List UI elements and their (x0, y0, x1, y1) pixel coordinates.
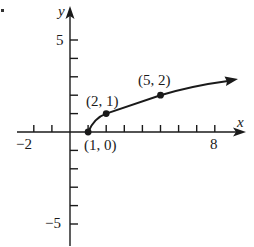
y-axis-label: y (58, 4, 65, 19)
x-axis (17, 125, 238, 132)
y-tick-5-label: 5 (56, 33, 64, 48)
x-axis-label: x (237, 115, 244, 130)
point-2-1 (103, 110, 110, 117)
graph-canvas (0, 0, 254, 247)
point-label-1-0: (1, 0) (84, 138, 117, 153)
point-label-5-2: (5, 2) (138, 73, 171, 88)
x-tick-neg2-label: −2 (16, 137, 32, 152)
x-tick-8-label: 8 (210, 137, 218, 152)
point-label-2-1: (2, 1) (86, 94, 119, 109)
point-5-2 (157, 92, 164, 99)
point-1-0 (85, 129, 92, 136)
y-tick-neg5-label: −5 (45, 216, 61, 231)
y-axis (70, 14, 78, 246)
corner-mark (1, 9, 4, 12)
